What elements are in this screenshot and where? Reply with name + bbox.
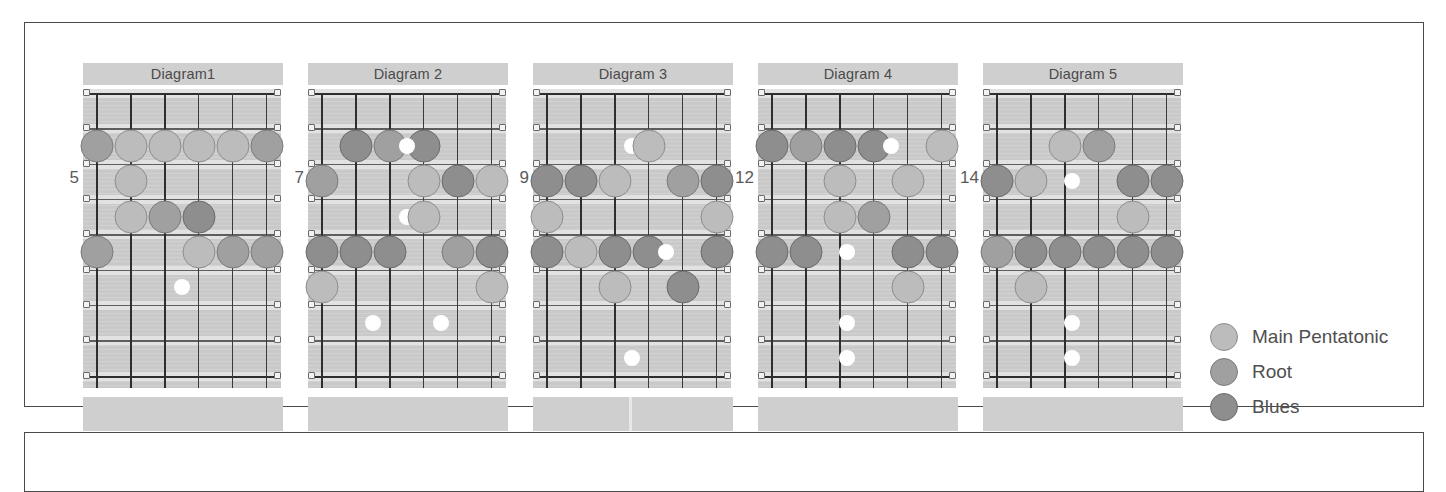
note-dot-blues xyxy=(374,235,407,268)
note-dot-main xyxy=(149,129,182,162)
note-dot-main xyxy=(892,271,925,304)
note-dot-blues xyxy=(565,165,598,198)
note-dot-blues xyxy=(531,235,564,268)
note-dot-root xyxy=(81,129,114,162)
position-marker-dot xyxy=(433,315,449,331)
note-dot-main xyxy=(183,129,216,162)
position-marker-dot xyxy=(1064,350,1080,366)
note-dot-main xyxy=(824,200,857,233)
note-dot-root xyxy=(217,235,250,268)
note-dot-blues xyxy=(340,235,373,268)
note-dot-main xyxy=(1015,271,1048,304)
note-dot-blues xyxy=(306,235,339,268)
note-dot-main xyxy=(217,129,250,162)
legend-label: Root xyxy=(1252,362,1292,381)
note-dots xyxy=(83,93,281,388)
note-dot-main xyxy=(1049,129,1082,162)
legend-label: Blues xyxy=(1252,397,1300,416)
fretboard: 5 xyxy=(83,93,281,388)
note-dot-blues xyxy=(701,235,734,268)
note-dot-root xyxy=(981,235,1014,268)
diagram-title: Diagram 3 xyxy=(533,63,733,85)
position-marker-dot xyxy=(174,279,190,295)
position-marker-dot xyxy=(658,244,674,260)
note-dot-main xyxy=(115,129,148,162)
note-dot-main xyxy=(183,235,216,268)
note-dot-blues xyxy=(1151,165,1184,198)
note-dot-blues xyxy=(1151,235,1184,268)
note-dot-blues xyxy=(981,165,1014,198)
legend-swatch-blues xyxy=(1210,393,1238,421)
diagram-title: Diagram 2 xyxy=(308,63,508,85)
note-dot-root xyxy=(667,165,700,198)
note-dot-main xyxy=(565,235,598,268)
note-dots xyxy=(533,93,731,388)
legend-item: Root xyxy=(1210,354,1410,389)
note-dot-blues xyxy=(790,235,823,268)
fretboard: 14 xyxy=(983,93,1181,388)
diagram-footer-bar xyxy=(83,397,283,431)
diagram-2: Diagram 27 xyxy=(308,63,508,431)
position-marker-dot xyxy=(1064,173,1080,189)
note-dot-root xyxy=(149,200,182,233)
note-dot-root xyxy=(306,165,339,198)
note-dot-main xyxy=(306,271,339,304)
position-marker-dot xyxy=(883,138,899,154)
note-dot-root xyxy=(1083,129,1116,162)
diagram-footer-bar xyxy=(308,397,508,431)
note-dot-blues xyxy=(599,235,632,268)
note-dot-blues xyxy=(183,200,216,233)
note-dot-main xyxy=(824,165,857,198)
next-panel xyxy=(24,432,1424,492)
main-panel: Diagram15Diagram 27Diagram 39Diagram 412… xyxy=(24,22,1424,407)
note-dot-main xyxy=(1015,165,1048,198)
diagram-4: Diagram 412 xyxy=(758,63,958,431)
legend-swatch-main xyxy=(1210,323,1238,351)
note-dot-blues xyxy=(892,235,925,268)
note-dot-blues xyxy=(756,235,789,268)
note-dot-main xyxy=(408,165,441,198)
fret-number-label: 9 xyxy=(507,169,529,186)
note-dot-blues xyxy=(340,129,373,162)
note-dot-blues xyxy=(1015,235,1048,268)
note-dot-blues xyxy=(442,165,475,198)
note-dot-blues xyxy=(926,235,959,268)
note-dot-blues xyxy=(1083,235,1116,268)
fretboard: 12 xyxy=(758,93,956,388)
legend-label: Main Pentatonic xyxy=(1252,327,1388,346)
note-dot-root xyxy=(442,235,475,268)
diagram-footer-bar xyxy=(533,397,733,431)
note-dot-main xyxy=(408,200,441,233)
fret-number-label: 7 xyxy=(282,169,304,186)
note-dot-root xyxy=(251,129,284,162)
note-dot-blues xyxy=(1049,235,1082,268)
legend-item: Main Pentatonic xyxy=(1210,319,1410,354)
note-dot-main xyxy=(633,129,666,162)
note-dot-root xyxy=(81,235,114,268)
note-dots xyxy=(983,93,1181,388)
position-marker-dot xyxy=(839,315,855,331)
diagram-title: Diagram1 xyxy=(83,63,283,85)
fret-number-label: 5 xyxy=(57,169,79,186)
position-marker-dot xyxy=(839,244,855,260)
fret-number-label: 12 xyxy=(732,169,754,186)
diagram-title: Diagram 5 xyxy=(983,63,1183,85)
position-marker-dot xyxy=(839,350,855,366)
position-marker-dot xyxy=(624,350,640,366)
legend-swatch-root xyxy=(1210,358,1238,386)
fret-number-label: 14 xyxy=(957,169,979,186)
note-dot-main xyxy=(599,165,632,198)
diagram-3: Diagram 39 xyxy=(533,63,733,431)
note-dot-blues xyxy=(1117,165,1150,198)
note-dot-main xyxy=(115,200,148,233)
note-dot-blues xyxy=(824,129,857,162)
note-dot-blues xyxy=(756,129,789,162)
note-dot-main xyxy=(599,271,632,304)
note-dot-blues xyxy=(531,165,564,198)
note-dots xyxy=(308,93,506,388)
diagram-1: Diagram15 xyxy=(83,63,283,431)
note-dot-main xyxy=(531,200,564,233)
diagram-title: Diagram 4 xyxy=(758,63,958,85)
note-dot-root xyxy=(858,200,891,233)
